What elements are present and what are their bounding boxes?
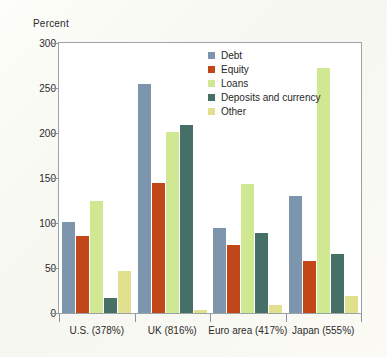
y-tick-mark: [50, 223, 58, 224]
bar: [180, 125, 193, 313]
bar: [289, 196, 302, 313]
y-tick-mark: [50, 133, 58, 134]
x-axis-separator: [361, 314, 362, 322]
legend-label: Deposits and currency: [221, 92, 321, 103]
x-axis-separator: [135, 314, 136, 322]
legend-label: Equity: [221, 64, 249, 75]
bar-group: [135, 43, 211, 313]
y-tick-mark: [50, 178, 58, 179]
legend-item: Equity: [208, 63, 321, 76]
bar: [303, 261, 316, 313]
x-tick-label: UK (816%): [148, 325, 197, 336]
x-tick-label: Japan (555%): [292, 325, 354, 336]
bar: [166, 132, 179, 313]
bar: [76, 236, 89, 313]
bar: [118, 271, 131, 313]
legend-item: Deposits and currency: [208, 91, 321, 104]
bar: [152, 183, 165, 314]
legend-item: Other: [208, 105, 321, 118]
y-tick-mark: [50, 268, 58, 269]
bar: [227, 245, 240, 313]
legend-swatch-icon: [208, 80, 215, 87]
legend-label: Other: [221, 106, 246, 117]
bar: [345, 296, 358, 313]
legend-swatch-icon: [208, 52, 215, 59]
bar: [90, 201, 103, 313]
legend-label: Loans: [221, 78, 248, 89]
bar: [138, 84, 151, 313]
bar: [331, 254, 344, 313]
bar: [241, 184, 254, 313]
legend-item: Loans: [208, 77, 321, 90]
legend-swatch-icon: [208, 108, 215, 115]
chart-legend: DebtEquityLoansDeposits and currencyOthe…: [208, 49, 321, 119]
legend-swatch-icon: [208, 94, 215, 101]
legend-item: Debt: [208, 49, 321, 62]
legend-label: Debt: [221, 50, 242, 61]
x-axis-separator: [286, 314, 287, 322]
bar: [269, 305, 282, 313]
y-tick-mark: [50, 313, 58, 314]
x-tick-label: U.S. (378%): [70, 325, 124, 336]
bar: [213, 228, 226, 313]
legend-swatch-icon: [208, 66, 215, 73]
x-axis-separator: [59, 314, 60, 322]
x-axis-separator: [210, 314, 211, 322]
bar: [104, 298, 117, 313]
y-tick-mark: [50, 88, 58, 89]
bar: [255, 233, 268, 313]
bar-group: [59, 43, 135, 313]
y-tick-mark: [50, 43, 58, 44]
chart-figure: Percent 050100150200250300 U.S. (378%)UK…: [0, 0, 387, 357]
x-tick-label: Euro area (417%): [208, 325, 287, 336]
bar: [62, 222, 75, 313]
bar: [194, 310, 207, 313]
y-axis-title: Percent: [33, 18, 69, 29]
